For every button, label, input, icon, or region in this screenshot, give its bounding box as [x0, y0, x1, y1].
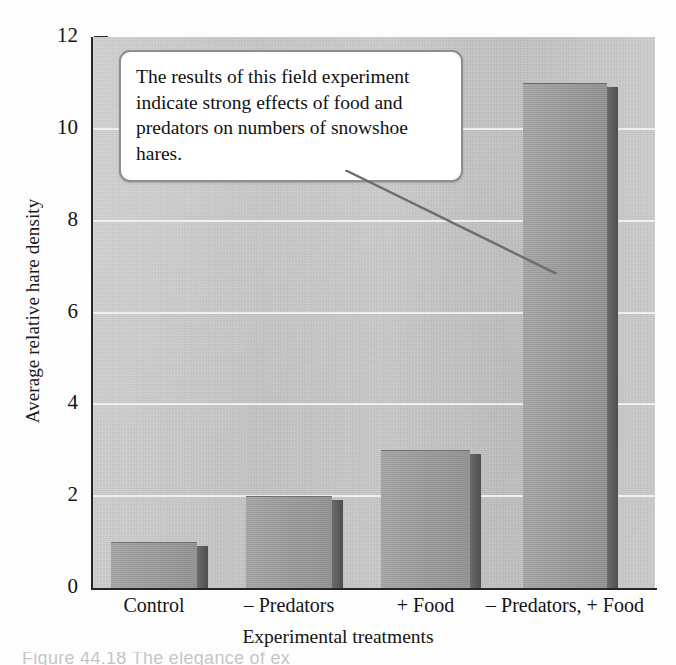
page-caption: Figure 44.18 The elegance of ex	[0, 652, 676, 665]
y-tick-label: 2	[32, 484, 78, 505]
bar	[246, 496, 343, 588]
x-axis-line	[91, 588, 657, 590]
bar-front-face	[246, 496, 332, 588]
y-tick-label: 6	[32, 301, 78, 322]
hare-density-figure: Average relative hare density 024681012 …	[0, 0, 676, 665]
bar-side-face	[607, 87, 618, 588]
bar-front-face	[381, 450, 470, 588]
bar-side-face	[197, 546, 208, 588]
y-axis-ticks: 024681012	[16, 0, 78, 665]
y-tick-label: 8	[32, 209, 78, 230]
bar-front-face	[523, 83, 607, 588]
bar-side-face	[332, 500, 343, 588]
x-axis-title: Experimental treatments	[0, 626, 676, 648]
bar	[111, 542, 208, 588]
bar	[381, 450, 481, 588]
x-axis-ticks: Control– Predators+ Food– Predators, + F…	[0, 594, 676, 626]
y-tick-label: 12	[32, 25, 78, 46]
bar-side-face	[470, 454, 481, 588]
y-tick-label: 4	[32, 392, 78, 413]
bar-front-face	[111, 542, 197, 588]
page-caption-text: Figure 44.18 The elegance of ex	[22, 652, 676, 665]
annotation-callout: The results of this field experiment ind…	[119, 50, 463, 182]
y-tick-label: 10	[32, 117, 78, 138]
x-tick-label: – Predators, + Food	[455, 594, 675, 617]
bar	[523, 83, 618, 588]
